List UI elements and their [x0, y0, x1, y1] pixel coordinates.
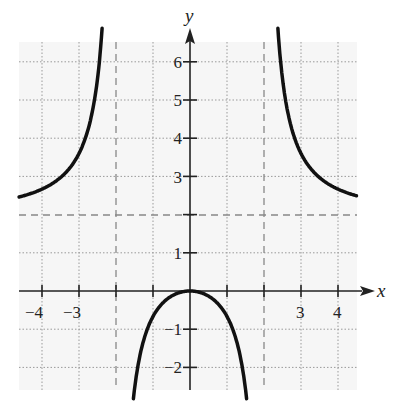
grid-background	[19, 42, 357, 390]
x-axis-arrow-icon	[360, 286, 375, 296]
x-tick-label-p4: 4	[333, 303, 342, 322]
y-tick-label-m2: −2	[164, 358, 182, 377]
y-axis-label: y	[183, 5, 194, 26]
graph-canvas: y x −4 −3 3 4 6 5 4 3 1 −1 −2	[0, 0, 394, 406]
y-tick-label-1: 1	[174, 244, 183, 263]
x-tick-label-m4: −4	[25, 303, 44, 322]
function-graph: y x −4 −3 3 4 6 5 4 3 1 −1 −2	[0, 0, 394, 406]
y-tick-label-3: 3	[174, 168, 183, 187]
y-tick-label-5: 5	[174, 91, 183, 110]
y-tick-label-4: 4	[174, 129, 183, 148]
y-tick-label-6: 6	[174, 53, 183, 72]
x-axis-label: x	[376, 280, 386, 301]
x-tick-label-p3: 3	[296, 303, 305, 322]
y-tick-label-m1: −1	[164, 320, 182, 339]
x-tick-label-m3: −3	[63, 303, 81, 322]
